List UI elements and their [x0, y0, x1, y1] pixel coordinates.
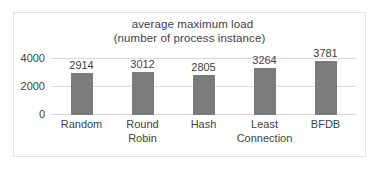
category-label-line: BFDB [295, 118, 356, 132]
bar-value-round-robin: 3012 [130, 58, 154, 70]
ytick-label-2000: 2000 [21, 80, 45, 92]
bar-slot-random: 2914 [51, 58, 112, 115]
ytick-label-0: 0 [39, 108, 45, 120]
chart-container: average maximum load (number of process … [13, 12, 366, 157]
bar-value-random: 2914 [69, 59, 93, 71]
ytick-label-4000: 4000 [21, 52, 45, 64]
bar-slot-hash: 2805 [173, 58, 234, 115]
bar-slot-bfdb: 3781 [295, 58, 356, 115]
category-label-bfdb: BFDB [295, 118, 356, 145]
bar-series: 2914 3012 2805 3264 3781 [51, 58, 356, 115]
category-label-line: Least [234, 118, 295, 132]
category-label-line: Robin [112, 132, 173, 146]
category-label-line: Hash [173, 118, 234, 132]
bar-value-hash: 2805 [191, 61, 215, 73]
plot-area: 4000 2000 0 2914 3012 2805 3264 [51, 58, 356, 115]
bar-round-robin[interactable] [132, 72, 154, 115]
bar-hash[interactable] [193, 75, 215, 115]
category-label-hash: Hash [173, 118, 234, 145]
category-label-random: Random [51, 118, 112, 145]
category-label-least-connection: Least Connection [234, 118, 295, 145]
category-label-line: Connection [234, 132, 295, 146]
bar-random[interactable] [71, 73, 93, 115]
bar-slot-least-connection: 3264 [234, 58, 295, 115]
category-label-line: Random [51, 118, 112, 132]
chart-title-line-2: (number of process instance) [14, 31, 365, 45]
chart-title: average maximum load (number of process … [14, 17, 365, 45]
bar-value-bfdb: 3781 [313, 47, 337, 59]
category-label-line: Round [112, 118, 173, 132]
category-label-round-robin: Round Robin [112, 118, 173, 145]
chart-title-line-1: average maximum load [14, 17, 365, 31]
category-axis: Random Round Robin Hash Least Connection… [51, 118, 356, 145]
bar-bfdb[interactable] [315, 61, 337, 115]
bar-value-least-connection: 3264 [252, 54, 276, 66]
bar-slot-round-robin: 3012 [112, 58, 173, 115]
bar-least-connection[interactable] [254, 68, 276, 115]
